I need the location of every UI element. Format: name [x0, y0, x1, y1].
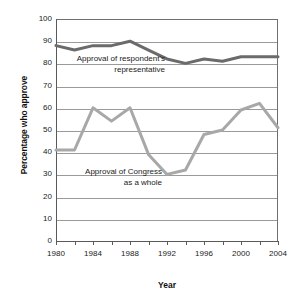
- y-tick-label-80: 80: [6, 59, 52, 67]
- annotation-congress: Approval of Congress as a whole: [60, 166, 162, 188]
- annotation-representative: Approval of respondent's representative: [59, 53, 165, 75]
- annotation-congress-line1: Approval of Congress: [60, 166, 162, 177]
- x-tick-label-2004: 2004: [258, 249, 298, 258]
- y-tick-label-70: 70: [6, 82, 52, 90]
- x-tick-mark-1986: [112, 241, 113, 245]
- x-tick-mark-1984: [93, 241, 94, 245]
- y-tick-label-50: 50: [6, 126, 52, 134]
- x-tick-label-1996: 1996: [184, 249, 224, 258]
- x-tick-mark-1994: [186, 241, 187, 245]
- x-tick-label-1984: 1984: [73, 249, 113, 258]
- annotation-congress-line2: as a whole: [60, 177, 162, 188]
- x-tick-label-1988: 1988: [110, 249, 150, 258]
- y-tick-label-60: 60: [6, 104, 52, 112]
- x-tick-mark-1998: [223, 241, 224, 245]
- x-tick-mark-1990: [149, 241, 150, 245]
- y-tick-label-10: 10: [6, 215, 52, 223]
- approval-line-chart: Percentage who approve 01020304050607080…: [0, 0, 303, 307]
- x-tick-mark-2000: [241, 241, 242, 245]
- annotation-representative-line2: representative: [59, 64, 165, 75]
- y-tick-label-0: 0: [6, 237, 52, 245]
- x-axis-title: Year: [56, 280, 278, 290]
- x-tick-label-1992: 1992: [147, 249, 187, 258]
- y-tick-label-20: 20: [6, 193, 52, 201]
- x-tick-mark-1996: [204, 241, 205, 245]
- annotation-representative-line1: Approval of respondent's: [59, 53, 165, 64]
- x-tick-mark-1992: [167, 241, 168, 245]
- x-tick-mark-1982: [75, 241, 76, 245]
- x-tick-mark-1988: [130, 241, 131, 245]
- y-tick-label-40: 40: [6, 148, 52, 156]
- x-tick-mark-1980: [56, 241, 57, 245]
- y-tick-label-100: 100: [6, 15, 52, 23]
- x-tick-label-2000: 2000: [221, 249, 261, 258]
- y-tick-label-90: 90: [6, 37, 52, 45]
- x-tick-mark-2004: [278, 241, 279, 245]
- y-tick-label-30: 30: [6, 170, 52, 178]
- x-tick-mark-2002: [260, 241, 261, 245]
- series-line-congress: [56, 103, 278, 174]
- x-tick-label-1980: 1980: [36, 249, 76, 258]
- y-axis-tick-labels: 0102030405060708090100: [0, 0, 52, 307]
